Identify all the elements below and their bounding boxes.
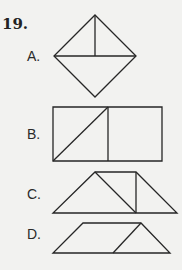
- option-b-figure[interactable]: [53, 107, 162, 161]
- option-d-figure[interactable]: [53, 223, 170, 253]
- figures: [0, 0, 182, 270]
- option-c-figure[interactable]: [53, 172, 177, 213]
- option-a-figure[interactable]: [54, 15, 136, 97]
